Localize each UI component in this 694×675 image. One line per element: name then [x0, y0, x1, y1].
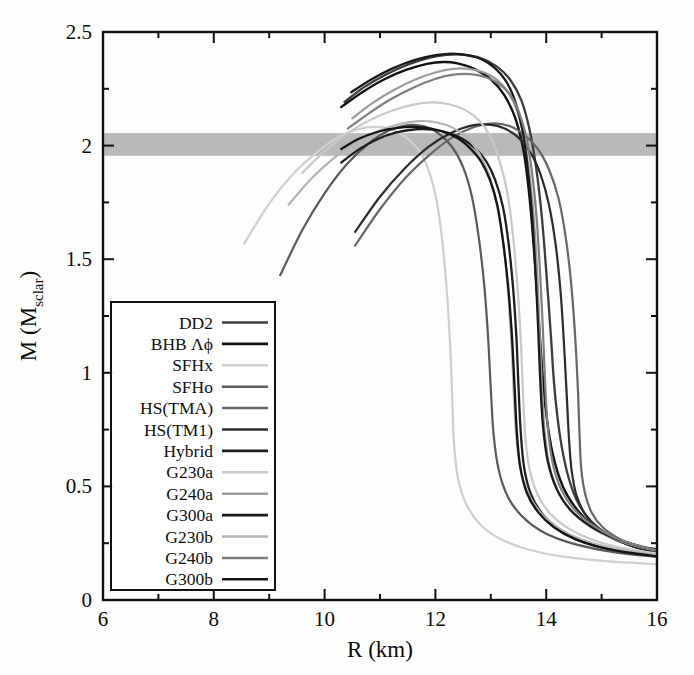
legend-label: G300a: [166, 505, 213, 525]
y-tick-label-1: 1: [82, 361, 93, 385]
y-tick-label-layer: 00.511.522.5: [66, 20, 92, 612]
x-tick-label-8: 8: [209, 607, 220, 631]
x-tick-label-12: 12: [425, 607, 446, 631]
legend-label: G300b: [165, 569, 213, 589]
legend-label: BHB Λϕ: [151, 334, 213, 354]
legend-label: HS(TMA): [140, 398, 213, 418]
legend-label: HS(TM1): [144, 420, 213, 440]
curve-hybrid: [341, 129, 657, 555]
y-tick-label-2: 2: [82, 134, 93, 158]
curve-g230b: [289, 121, 657, 555]
x-tick-label-14: 14: [536, 607, 558, 631]
curve-g230a: [302, 102, 657, 553]
y-axis-title-subscript: sclar: [30, 279, 46, 307]
svg-text:M (Msclar): M (Msclar): [16, 271, 46, 361]
legend-label: G230a: [166, 462, 213, 482]
legend-label: G240b: [165, 548, 213, 568]
y-axis-title: M (Msclar): [16, 271, 46, 361]
y-tick-label-0.5: 0.5: [66, 474, 92, 498]
x-tick-label-6: 6: [98, 607, 109, 631]
mass-radius-figure: 6810121416 00.511.522.5 R (km) M (Msclar…: [0, 0, 694, 675]
x-tick-label-layer: 6810121416: [98, 607, 668, 631]
chart-legend[interactable]: DD2BHB ΛϕSFHxSFHoHS(TMA)HS(TM1)HybridG23…: [111, 302, 275, 590]
legend-label: G230b: [165, 527, 213, 547]
y-axis-title-main: M (M: [16, 307, 41, 361]
curve-sfhx: [244, 127, 657, 564]
curve-layer: [244, 54, 657, 565]
legend-label: Hybrid: [163, 441, 213, 461]
legend-label: SFHo: [172, 377, 213, 397]
legend-label: SFHx: [172, 355, 213, 375]
x-axis-title: R (km): [347, 637, 413, 662]
y-axis-title-close: ): [16, 271, 41, 279]
x-tick-label-10: 10: [314, 607, 335, 631]
y-tick-label-1.5: 1.5: [66, 247, 92, 271]
y-tick-label-2.5: 2.5: [66, 20, 92, 44]
x-tick-label-16: 16: [647, 607, 668, 631]
y-tick-label-0: 0: [82, 588, 93, 612]
legend-label: DD2: [179, 313, 213, 333]
mass-radius-chart: 6810121416 00.511.522.5 R (km) M (Msclar…: [0, 0, 694, 675]
legend-label: G240a: [166, 484, 213, 504]
curve-sfho: [280, 125, 657, 557]
